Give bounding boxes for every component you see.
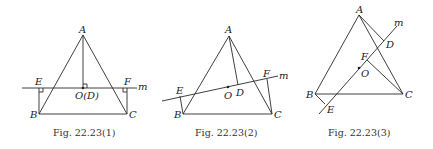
label-c: C [405, 89, 413, 100]
label-a: A [224, 24, 232, 35]
right-angle-mark-f [123, 88, 127, 92]
label-od: O(D) [75, 90, 99, 101]
segment-be [315, 94, 325, 104]
label-m: m [394, 17, 403, 28]
label-c: C [274, 109, 282, 120]
point-o [358, 67, 361, 70]
label-b: B [29, 109, 37, 120]
figure-1: A B C E F O(D) m Fig. 22.23(1) [22, 24, 147, 138]
label-d: D [235, 87, 244, 98]
caption-2: Fig. 22.23(2) [195, 127, 257, 138]
geometry-figures: A B C E F O(D) m Fig. 22.23(1) A B C D E… [0, 0, 433, 149]
label-b: B [305, 89, 313, 100]
label-e: E [326, 104, 335, 115]
label-f: F [360, 51, 369, 62]
triangle-abc [183, 36, 272, 114]
label-d: D [385, 39, 394, 50]
label-f: F [123, 76, 132, 87]
figure-3: A B C D E F O m Fig. 22.23(3) [305, 4, 413, 138]
label-e: E [34, 76, 43, 87]
caption-1: Fig. 22.23(1) [53, 127, 115, 138]
label-m: m [138, 81, 147, 92]
label-a: A [78, 24, 86, 35]
label-o: O [224, 90, 232, 101]
figure-2: A B C D E F O m Fig. 22.23(2) [162, 24, 288, 138]
caption-3: Fig. 22.23(3) [328, 127, 390, 138]
label-e: E [175, 85, 184, 96]
point-o [227, 86, 230, 89]
label-c: C [129, 109, 137, 120]
label-b: B [173, 109, 181, 120]
label-o: O [361, 68, 369, 79]
right-angle-mark-e [39, 88, 43, 92]
segment-cf [367, 60, 403, 94]
label-a: A [355, 4, 363, 15]
label-m: m [279, 70, 288, 81]
label-f: F [262, 68, 271, 79]
point-o [82, 87, 85, 90]
